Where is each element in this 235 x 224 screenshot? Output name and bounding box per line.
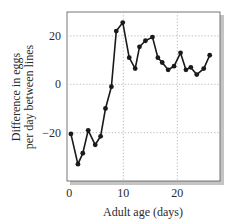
data-point-marker — [184, 67, 189, 72]
y-tick-label: 20 — [49, 29, 61, 43]
data-point-marker — [201, 66, 206, 71]
data-point-marker — [80, 151, 85, 156]
x-tick-label: 0 — [66, 186, 72, 200]
data-point-marker — [76, 162, 81, 167]
data-point-marker — [188, 65, 193, 70]
data-point-marker — [160, 60, 165, 65]
x-axis-label: Adult age (days) — [103, 205, 183, 219]
data-point-marker — [166, 67, 171, 72]
plot-area — [67, 12, 220, 181]
data-point-marker — [178, 50, 183, 55]
data-point-marker — [114, 29, 119, 34]
data-point-marker — [109, 84, 114, 89]
x-axis-ticks: 01020 — [66, 186, 183, 200]
data-point-marker — [143, 38, 148, 43]
data-point-marker — [155, 55, 160, 60]
data-point-marker — [137, 44, 142, 49]
data-point-marker — [69, 132, 74, 137]
data-point-marker — [93, 142, 98, 147]
line-chart: 01020 200−20 Adult age (days) Difference… — [0, 0, 235, 224]
y-axis-label-line-1: Difference in eggs — [9, 52, 23, 141]
data-point-marker — [150, 35, 155, 40]
x-tick-label: 20 — [171, 186, 183, 200]
data-point-marker — [98, 134, 103, 139]
data-point-marker — [120, 20, 125, 25]
data-point-marker — [172, 64, 177, 69]
y-axis-label-line-2: per day between lines — [22, 45, 36, 150]
x-tick-label: 10 — [117, 186, 129, 200]
y-axis-label: Difference in eggs per day between lines — [9, 45, 36, 150]
y-tick-label: 0 — [55, 77, 61, 91]
data-point-marker — [86, 128, 91, 133]
data-point-marker — [194, 72, 199, 77]
data-point-marker — [127, 55, 132, 60]
data-point-marker — [207, 53, 212, 58]
y-tick-label: −20 — [42, 126, 61, 140]
data-point-marker — [103, 106, 108, 111]
data-point-marker — [133, 66, 138, 71]
y-axis-ticks: 200−20 — [42, 29, 61, 140]
